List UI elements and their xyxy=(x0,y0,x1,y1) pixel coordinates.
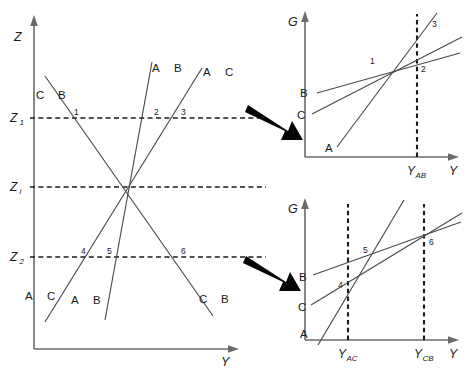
tick-label-z1: Z 1 xyxy=(9,111,24,127)
bottom-right-point-4: 4 xyxy=(338,280,343,290)
svg-text:2: 2 xyxy=(19,257,25,266)
left-chart-label-cb-upper: C B xyxy=(36,89,66,101)
svg-text:AC: AC xyxy=(346,354,358,363)
left-chart-point-6: 6 xyxy=(181,246,186,256)
top-right-xtick-yab: Y AB xyxy=(407,164,427,180)
economics-figure: Z Y Z 1 Z i Z 2 C B A xyxy=(0,0,471,375)
bottom-right-line-b xyxy=(313,222,461,275)
svg-text:A: A xyxy=(203,66,211,78)
top-right-y-axis-arrowhead xyxy=(301,11,309,22)
top-right-x-axis-label: Y xyxy=(449,164,459,178)
svg-text:C: C xyxy=(199,293,207,305)
svg-text:B: B xyxy=(58,89,66,101)
bottom-right-label-b: B xyxy=(299,271,307,283)
svg-text:A: A xyxy=(25,290,33,302)
left-chart-label-ab-upper: A B xyxy=(152,62,182,74)
svg-text:C: C xyxy=(225,66,233,78)
top-right-line-c xyxy=(312,37,462,114)
connector-arrow-bottom xyxy=(243,256,301,291)
left-chart-y-axis-arrowhead xyxy=(30,15,38,26)
left-chart-line-ac xyxy=(45,68,202,322)
left-chart-line-cb xyxy=(45,76,213,316)
left-chart-y-axis-label: Z xyxy=(13,30,22,44)
svg-text:Z: Z xyxy=(9,111,18,125)
bottom-right-line-c xyxy=(311,213,462,305)
left-chart-point-1: 1 xyxy=(74,107,79,117)
svg-text:Z: Z xyxy=(9,180,18,194)
bottom-right-label-c: C xyxy=(298,301,306,313)
tick-label-zi: Z i xyxy=(9,180,22,196)
left-chart-label-cb-lower: C B xyxy=(199,293,229,305)
bottom-right-point-5: 5 xyxy=(363,245,368,255)
top-right-y-axis-label: G xyxy=(288,15,298,29)
left-chart-point-5: 5 xyxy=(107,246,112,256)
bottom-right-line-a xyxy=(318,200,404,345)
left-chart-label-ac-upper: A C xyxy=(203,66,233,78)
top-right-point-1: 1 xyxy=(370,56,375,66)
connector-arrow-top xyxy=(245,105,303,140)
left-chart-x-axis-label: Y xyxy=(221,355,231,369)
top-right-point-2: 2 xyxy=(421,64,426,74)
top-right-label-c: C xyxy=(297,109,305,121)
left-chart-point-4: 4 xyxy=(81,246,86,256)
top-right-line-a xyxy=(337,13,437,147)
left-chart-label-ab-lower: A B xyxy=(71,294,101,306)
svg-text:B: B xyxy=(174,62,182,74)
bottom-right-label-a: A xyxy=(300,328,308,340)
top-right-chart: G Y B C A 1 2 3 Y AB xyxy=(288,11,462,180)
bottom-right-point-6: 6 xyxy=(429,237,434,247)
left-chart-point-3: 3 xyxy=(181,107,186,117)
svg-text:B: B xyxy=(93,294,101,306)
bottom-right-y-axis-arrowhead xyxy=(301,198,309,209)
svg-text:i: i xyxy=(20,187,22,196)
bottom-right-chart: G Y B C A 4 5 6 Y AC Y CB xyxy=(288,198,462,363)
svg-text:A: A xyxy=(71,294,79,306)
tick-label-z2: Z 2 xyxy=(9,250,25,266)
bottom-right-xtick-ycb: Y CB xyxy=(414,347,434,363)
svg-text:A: A xyxy=(152,62,160,74)
svg-text:B: B xyxy=(221,293,229,305)
left-chart-point-2: 2 xyxy=(154,107,159,117)
bottom-right-x-axis-label: Y xyxy=(449,347,459,361)
top-right-label-a: A xyxy=(325,142,333,154)
bottom-right-x-axis-arrowhead xyxy=(448,336,459,344)
top-right-label-b: B xyxy=(300,87,308,99)
bottom-right-y-axis-label: G xyxy=(288,202,298,216)
svg-text:AB: AB xyxy=(415,171,427,180)
svg-text:Z: Z xyxy=(9,250,18,264)
svg-text:C: C xyxy=(47,290,55,302)
top-right-line-b xyxy=(317,53,460,93)
left-chart-line-ab xyxy=(105,62,152,320)
bottom-right-xtick-yac: Y AC xyxy=(338,347,358,363)
left-chart: Z Y Z 1 Z i Z 2 C B A xyxy=(9,15,266,369)
svg-text:1: 1 xyxy=(20,118,24,127)
svg-text:C: C xyxy=(36,89,44,101)
top-right-point-3: 3 xyxy=(432,19,437,29)
left-chart-x-axis-arrowhead xyxy=(228,345,239,353)
top-right-x-axis-arrowhead xyxy=(448,153,459,161)
left-chart-label-ac-lower: A C xyxy=(25,290,55,302)
svg-text:CB: CB xyxy=(423,354,435,363)
figure-canvas: Z Y Z 1 Z i Z 2 C B A xyxy=(0,0,471,375)
